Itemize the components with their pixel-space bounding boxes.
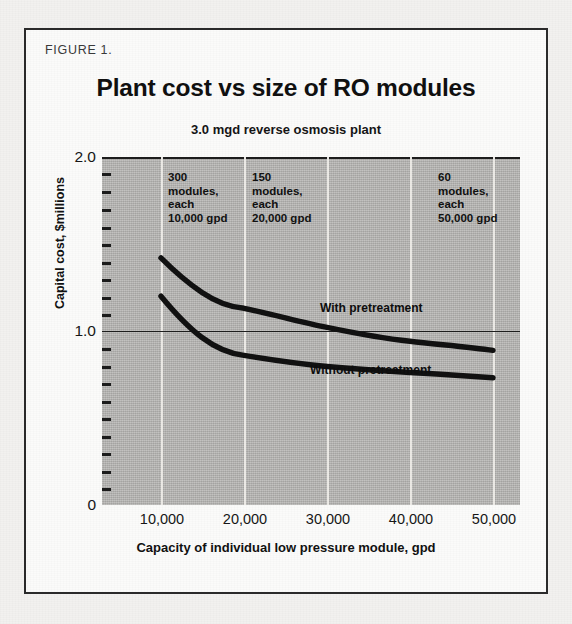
chart-title: Plant cost vs size of RO modules: [26, 74, 546, 102]
y-minor-tick: [102, 209, 111, 212]
x-axis-title: Capacity of individual low pressure modu…: [26, 540, 546, 555]
y-minor-tick: [102, 279, 111, 282]
y-minor-tick: [102, 471, 111, 474]
series-label-without-pretreatment: Without pretreatment: [310, 363, 431, 377]
y-minor-tick: [102, 191, 111, 194]
y-tick-label-2.0: 2.0: [74, 148, 96, 166]
y-minor-tick: [102, 314, 111, 317]
figure-container: FIGURE 1. Plant cost vs size of RO modul…: [24, 28, 548, 594]
data-curves: [102, 157, 520, 505]
x-axis-tick-labels: 10,000 20,000 30,000 40,000 50,000: [102, 511, 520, 533]
y-minor-tick: [102, 227, 111, 230]
y-minor-tick: [102, 488, 111, 491]
x-tick-label-20000: 20,000: [223, 511, 267, 527]
y-tick-label-0: 0: [87, 496, 96, 514]
y-minor-tick: [102, 453, 111, 456]
y-minor-tick: [102, 436, 111, 439]
y-minor-tick: [102, 383, 111, 386]
series-label-with-pretreatment: With pretreatment: [320, 301, 423, 315]
y-minor-tick: [102, 401, 111, 404]
y-tick-label-1.0: 1.0: [74, 322, 96, 340]
y-axis-tick-labels: 2.0 1.0 0: [44, 157, 96, 505]
y-axis-minor-ticks: [102, 157, 114, 505]
y-minor-tick: [102, 418, 111, 421]
y-minor-tick: [102, 297, 111, 300]
x-tick-label-50000: 50,000: [472, 511, 516, 527]
scanned-page: FIGURE 1. Plant cost vs size of RO modul…: [0, 0, 572, 624]
x-tick-label-10000: 10,000: [140, 511, 184, 527]
x-tick-label-30000: 30,000: [306, 511, 350, 527]
chart-subtitle: 3.0 mgd reverse osmosis plant: [26, 122, 546, 137]
y-minor-tick: [102, 173, 111, 176]
y-minor-tick: [102, 348, 111, 351]
y-minor-tick: [102, 262, 111, 265]
figure-label: FIGURE 1.: [45, 43, 112, 57]
y-minor-tick: [102, 244, 111, 247]
plot-area: 300 modules, each 10,000 gpd 150 modules…: [102, 157, 520, 505]
y-minor-tick: [102, 366, 111, 369]
y-axis-title: Capital cost, $millions: [53, 143, 67, 343]
x-tick-label-40000: 40,000: [389, 511, 433, 527]
